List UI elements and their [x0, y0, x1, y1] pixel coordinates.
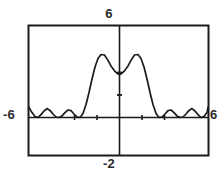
- plot-canvas: [0, 0, 218, 173]
- viewing-window-frame: [29, 26, 209, 156]
- window-xmax-label: 6: [210, 108, 218, 121]
- window-xmin-label: -6: [3, 108, 15, 121]
- function-curve: [29, 55, 208, 118]
- window-ymin-label: -2: [0, 157, 218, 170]
- graph-figure: 6 -6 6 -2: [0, 0, 218, 173]
- window-ymax-label: 6: [0, 7, 218, 20]
